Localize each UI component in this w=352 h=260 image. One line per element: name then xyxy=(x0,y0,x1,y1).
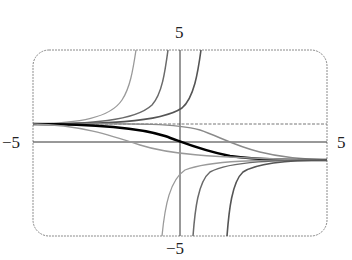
x-right-label: 5 xyxy=(337,134,346,151)
x-left-label: −5 xyxy=(2,134,20,151)
upper-curve-2 xyxy=(33,50,168,124)
lower-curve-3 xyxy=(227,160,327,236)
y-top-label: 5 xyxy=(175,24,184,41)
lower-curve-2 xyxy=(193,160,327,236)
y-bottom-label: −5 xyxy=(166,240,184,257)
upper-curve-3 xyxy=(33,50,201,124)
upper-curve-1 xyxy=(33,50,136,124)
